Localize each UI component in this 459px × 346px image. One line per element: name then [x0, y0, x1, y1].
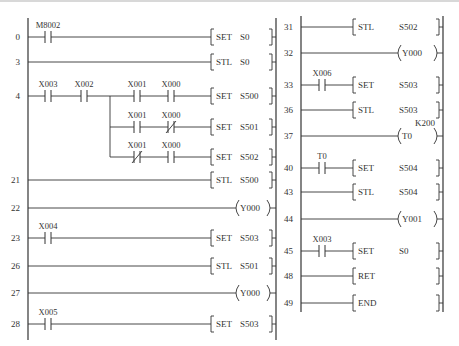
coil-left-paren — [398, 128, 401, 144]
contact-label: X001 — [128, 79, 147, 89]
instruction-operand: S500 — [240, 91, 259, 101]
instruction-left-bracket — [353, 268, 356, 284]
instruction-operand: S0 — [399, 246, 409, 256]
ladder-diagram: 0M8002SETS03STLS04X003X002X001X000SETS50… — [0, 0, 459, 346]
instruction-op: STL — [358, 22, 374, 32]
step-number: 36 — [284, 105, 294, 115]
instruction-operand: S501 — [240, 122, 259, 132]
top-border — [0, 0, 459, 2]
step-number: 0 — [16, 32, 21, 42]
contact-label: X003 — [313, 234, 332, 244]
coil-right-paren — [267, 200, 270, 216]
instruction-left-bracket — [353, 184, 356, 200]
coil-left-paren — [398, 45, 401, 61]
instruction-left-bracket — [211, 316, 214, 332]
step-number: 43 — [284, 187, 294, 197]
step-number: 48 — [284, 271, 294, 281]
instruction-right-bracket — [436, 77, 439, 93]
instruction-op: STL — [358, 105, 374, 115]
step-number: 31 — [284, 22, 293, 32]
contact-label: X001 — [128, 140, 147, 150]
instruction-right-bracket — [269, 119, 272, 135]
coil-left-paren — [236, 200, 239, 216]
instruction-left-bracket — [353, 102, 356, 118]
instruction-op: END — [358, 298, 377, 308]
instruction-right-bracket — [269, 316, 272, 332]
instruction-left-bracket — [211, 54, 214, 70]
contact-label: X000 — [162, 140, 181, 150]
instruction-op: SET — [216, 319, 233, 329]
instruction-left-bracket — [353, 19, 356, 35]
instruction-right-bracket — [269, 172, 272, 188]
instruction-operand: S0 — [240, 32, 250, 42]
instruction-op: SET — [358, 163, 375, 173]
instruction-op: STL — [216, 57, 232, 67]
instruction-op: SET — [216, 233, 233, 243]
instruction-right-bracket — [269, 258, 272, 274]
instruction-left-bracket — [353, 295, 356, 311]
instruction-left-bracket — [211, 230, 214, 246]
contact-label: T0 — [317, 151, 326, 161]
instruction-right-bracket — [436, 268, 439, 284]
instruction-left-bracket — [353, 243, 356, 259]
contact-label: X000 — [162, 110, 181, 120]
instruction-operand: S504 — [399, 163, 418, 173]
instruction-operand: S503 — [240, 233, 259, 243]
instruction-left-bracket — [211, 88, 214, 104]
instruction-left-bracket — [211, 149, 214, 165]
step-number: 49 — [284, 298, 294, 308]
instruction-left-bracket — [353, 160, 356, 176]
instruction-op: RET — [358, 271, 376, 281]
contact-label: X006 — [313, 68, 332, 78]
instruction-right-bracket — [269, 149, 272, 165]
instruction-operand: S502 — [240, 152, 259, 162]
coil-operand: Y001 — [402, 214, 422, 224]
step-number: 21 — [11, 175, 20, 185]
instruction-op: STL — [358, 187, 374, 197]
contact-label: X002 — [75, 79, 94, 89]
instruction-operand: S500 — [240, 175, 259, 185]
instruction-op: SET — [358, 246, 375, 256]
instruction-right-bracket — [269, 29, 272, 45]
coil-right-paren — [434, 211, 437, 227]
instruction-operand: S502 — [399, 22, 418, 32]
contact-label: X000 — [162, 79, 181, 89]
coil-operand: T0 — [402, 131, 412, 141]
contact-label: M8002 — [36, 20, 61, 30]
step-number: 37 — [284, 131, 294, 141]
instruction-right-bracket — [436, 160, 439, 176]
instruction-operand: S503 — [399, 105, 418, 115]
instruction-left-bracket — [353, 77, 356, 93]
step-number: 44 — [284, 214, 294, 224]
contact-label: X003 — [39, 79, 58, 89]
instruction-left-bracket — [211, 29, 214, 45]
contact-label: X005 — [39, 307, 58, 317]
instruction-right-bracket — [436, 19, 439, 35]
contact-label: X001 — [128, 110, 147, 120]
instruction-right-bracket — [269, 54, 272, 70]
step-number: 45 — [284, 246, 294, 256]
instruction-operand: S0 — [240, 57, 250, 67]
step-number: 33 — [284, 80, 294, 90]
instruction-op: SET — [216, 122, 233, 132]
coil-right-paren — [267, 285, 270, 301]
coil-operand: Y000 — [240, 288, 260, 298]
instruction-op: SET — [216, 91, 233, 101]
instruction-right-bracket — [436, 243, 439, 259]
step-number: 28 — [11, 319, 21, 329]
coil-left-paren — [236, 285, 239, 301]
step-number: 40 — [284, 163, 294, 173]
step-number: 26 — [11, 261, 21, 271]
instruction-left-bracket — [211, 172, 214, 188]
coil-right-paren — [434, 128, 437, 144]
instruction-left-bracket — [211, 119, 214, 135]
step-number: 3 — [16, 57, 21, 67]
instruction-operand: S501 — [240, 261, 259, 271]
instruction-op: STL — [216, 175, 232, 185]
step-number: 22 — [11, 203, 20, 213]
instruction-op: SET — [216, 152, 233, 162]
instruction-right-bracket — [436, 102, 439, 118]
coil-right-paren — [434, 45, 437, 61]
timer-preset: K200 — [415, 118, 435, 128]
contact-label: X004 — [39, 221, 59, 231]
